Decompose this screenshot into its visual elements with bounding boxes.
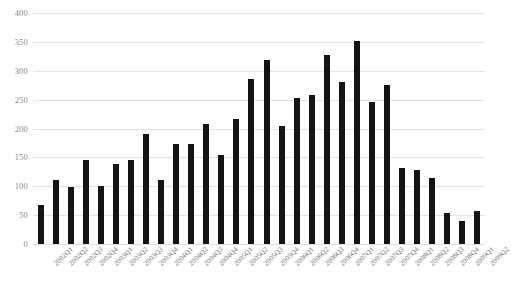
bar — [143, 134, 149, 244]
bar — [113, 164, 119, 244]
bar — [414, 170, 420, 244]
y-axis-tick-label: 400 — [15, 9, 28, 18]
bar — [474, 211, 480, 244]
bar — [83, 160, 89, 244]
bar — [354, 41, 360, 244]
bar — [188, 144, 194, 244]
x-axis: 2002Q12002Q22002Q32002Q42003Q12003Q22003… — [33, 246, 485, 307]
bar — [264, 60, 270, 244]
y-axis-tick-label: 300 — [15, 67, 28, 76]
bar — [203, 124, 209, 244]
bar — [128, 160, 134, 244]
bar — [429, 178, 435, 244]
bar — [279, 126, 285, 244]
gridline — [33, 71, 485, 72]
bar — [173, 144, 179, 244]
plot-area — [33, 13, 485, 244]
y-axis-tick-label: 0 — [24, 240, 28, 249]
bar — [68, 187, 74, 244]
gridline — [33, 13, 485, 14]
bar — [218, 155, 224, 244]
y-axis-tick-label: 250 — [15, 95, 28, 104]
bar — [233, 119, 239, 244]
y-axis-tick-label: 150 — [15, 153, 28, 162]
bar — [339, 82, 345, 244]
gridline — [33, 129, 485, 130]
gridline — [33, 157, 485, 158]
bar — [248, 79, 254, 244]
y-axis: 050100150200250300350400 — [0, 0, 33, 257]
gridline — [33, 244, 485, 245]
bar — [309, 95, 315, 244]
bar — [158, 180, 164, 244]
gridline — [33, 42, 485, 43]
y-axis-tick-label: 50 — [19, 211, 28, 220]
bar — [399, 168, 405, 244]
gridline — [33, 100, 485, 101]
bar — [384, 85, 390, 244]
bar — [369, 102, 375, 244]
bar — [98, 186, 104, 244]
bar — [294, 98, 300, 244]
bar — [324, 55, 330, 244]
y-axis-tick-label: 200 — [15, 124, 28, 133]
bar — [38, 205, 44, 244]
bar — [53, 180, 59, 244]
bar — [459, 221, 465, 244]
bar — [444, 213, 450, 244]
y-axis-tick-label: 100 — [15, 182, 28, 191]
y-axis-tick-label: 350 — [15, 38, 28, 47]
